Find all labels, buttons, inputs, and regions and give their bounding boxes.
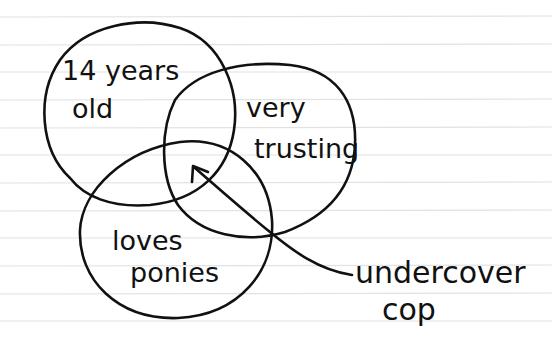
set-label-very-trusting-line1: very [246,92,306,123]
annotation-label-line2: cop [382,292,436,327]
set-label-loves-ponies-line2: ponies [130,257,219,288]
venn-diagram-canvas: 14 years old very trusting loves ponies … [0,0,552,341]
set-label-very-trusting-line2: trusting [254,133,359,164]
set-label-14-years-old-line1: 14 years [62,55,179,86]
ruled-paper-background: 14 years old very trusting loves ponies … [0,0,552,341]
annotation-label-line1: undercover [355,255,526,290]
set-label-14-years-old-line2: old [72,93,113,124]
set-label-loves-ponies-line1: loves [112,225,183,256]
